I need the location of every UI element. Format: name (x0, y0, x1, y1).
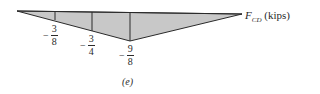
ordinate-label-2: − 3 4 (80, 34, 95, 57)
minus-sign: − (80, 40, 86, 51)
numerator: 9 (127, 44, 134, 56)
axis-symbol: F (245, 9, 252, 21)
denominator: 8 (52, 36, 57, 47)
minus-sign: − (43, 30, 49, 41)
axis-units: (kips) (264, 9, 290, 21)
numerator: 3 (51, 24, 58, 36)
ordinate-label-3: − 9 8 (119, 44, 134, 67)
numerator: 3 (88, 34, 95, 46)
ordinate-label-1: − 3 8 (43, 24, 58, 47)
denominator: 8 (128, 56, 133, 67)
axis-label: FCD (kips) (245, 9, 290, 24)
axis-subscript: CD (252, 16, 262, 24)
minus-sign: − (119, 50, 125, 61)
denominator: 4 (89, 46, 94, 57)
figure-caption: (e) (122, 76, 133, 87)
